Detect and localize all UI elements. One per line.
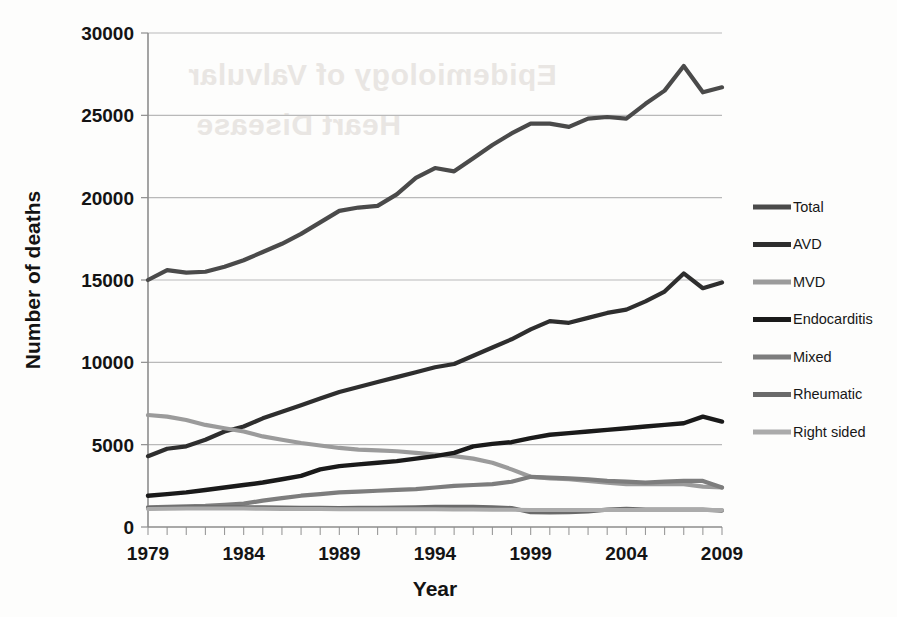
x-axis-tick-label: 1984 [223,543,266,564]
x-axis-tick-label: 1994 [414,543,457,564]
x-axis-tick-label: 1999 [510,543,552,564]
gridlines [148,33,722,445]
y-axis-tick-label: 10000 [81,352,134,373]
y-tick-labels: 050001000015000200002500030000 [81,23,134,538]
legend-label: Rheumatic [793,386,862,402]
y-axis-tick-label: 20000 [81,188,134,209]
chart-figure: Epidemiology of Valvular Heart Disease 0… [0,0,897,617]
legend-label: Endocarditis [793,311,873,327]
legend-label: Mixed [793,349,832,365]
legend-label: Right sided [793,424,866,440]
series-line-total [148,66,722,280]
y-axis-tick-label: 0 [123,517,134,538]
y-axis-tick-label: 25000 [81,105,134,126]
x-axis-tick-label: 1979 [127,543,169,564]
legend-label: MVD [793,274,825,290]
x-axis-minor-ticks [148,527,722,535]
x-tick-labels: 1979198419891994199920042009 [127,543,743,564]
series-line-right-sided [148,509,722,510]
y-axis-tick-label: 5000 [92,435,134,456]
y-axis-title: Number of deaths [21,191,44,370]
series-line-mixed [148,477,722,507]
legend-label: AVD [793,236,822,252]
x-axis-tick-label: 2004 [605,543,648,564]
legend: TotalAVDMVDEndocarditisMixedRheumaticRig… [753,199,873,440]
x-axis-tick-label: 1989 [318,543,360,564]
legend-label: Total [793,199,824,215]
x-axis-tick-label: 2009 [701,543,743,564]
y-axis-tick-label: 30000 [81,23,134,44]
line-chart: 050001000015000200002500030000 197919841… [0,0,897,617]
x-axis-title: Year [413,577,457,600]
y-axis-tick-label: 15000 [81,270,134,291]
data-series-group [148,66,722,513]
